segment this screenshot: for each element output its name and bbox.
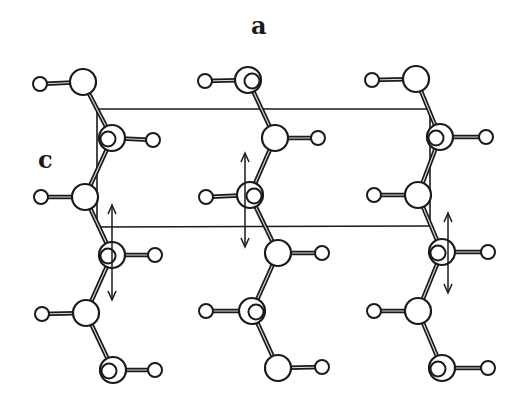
hydrogen-atom bbox=[146, 133, 160, 147]
hydrogen-atom bbox=[33, 77, 47, 91]
bonds bbox=[40, 79, 488, 370]
oxygen-atom bbox=[70, 69, 96, 95]
oxygen-atom bbox=[265, 240, 291, 266]
hydrogen-atom bbox=[35, 307, 49, 321]
hydrogen-atom bbox=[311, 131, 325, 145]
hydrogen-atom bbox=[367, 304, 381, 318]
oxygen-atom bbox=[262, 125, 288, 151]
axis-label-c: c bbox=[38, 148, 53, 172]
oxygen-atom bbox=[405, 182, 431, 208]
overlapping-atom bbox=[102, 364, 117, 379]
hydrogen-atom bbox=[367, 188, 381, 202]
hydrogen-atom bbox=[315, 360, 329, 374]
oxygen-atom bbox=[265, 355, 291, 381]
overlapping-atom bbox=[431, 246, 446, 261]
oxygen-atom bbox=[405, 298, 431, 324]
overlapping-atom bbox=[431, 362, 446, 377]
hydrogen-atom bbox=[479, 130, 493, 144]
overlapping-atom bbox=[429, 131, 444, 146]
hydrogen-atom bbox=[148, 363, 162, 377]
axis-label-a: a bbox=[251, 14, 267, 38]
oxygen-atom bbox=[73, 300, 99, 326]
overlapping-atom bbox=[249, 305, 264, 320]
hydrogen-atom bbox=[481, 361, 495, 375]
overlapping-atom bbox=[247, 189, 262, 204]
hydrogen-atom bbox=[199, 304, 213, 318]
hydrogen-atom bbox=[148, 248, 162, 262]
hydrogen-atom bbox=[481, 245, 495, 259]
hydrogen-atom bbox=[365, 73, 379, 87]
overlapping-atom bbox=[101, 249, 116, 264]
oxygen-atom bbox=[403, 66, 429, 92]
hydrogen-atom bbox=[315, 246, 329, 260]
oxygen-atom bbox=[72, 184, 98, 210]
overlapping-atom bbox=[101, 132, 116, 147]
hydrogen-atom bbox=[198, 74, 212, 88]
crystal-structure-diagram bbox=[0, 0, 522, 400]
hydrogen-atom bbox=[199, 190, 213, 204]
overlapping-atom bbox=[245, 74, 260, 89]
hydrogen-atom bbox=[34, 190, 48, 204]
